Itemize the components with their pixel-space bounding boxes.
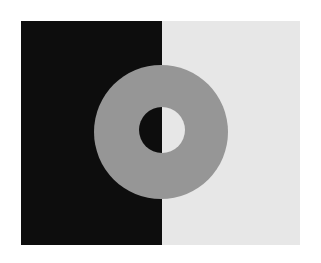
inner-hole-dark-side [139, 107, 162, 153]
illusion-figure [0, 0, 321, 263]
annulus-inner-hole [139, 107, 185, 153]
inner-hole-light-side [162, 107, 185, 153]
